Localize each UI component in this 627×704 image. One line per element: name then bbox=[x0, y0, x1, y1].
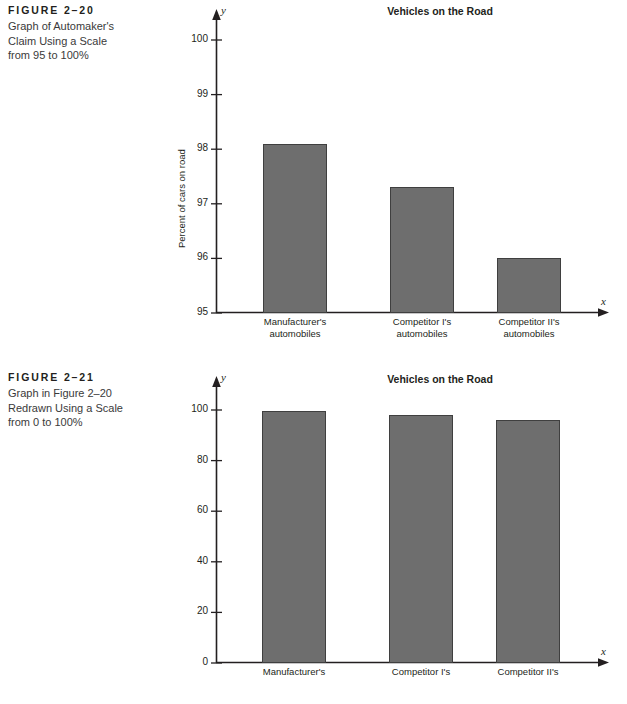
figure-2-21-ytick-80: 80 bbox=[176, 454, 208, 465]
figure-2-20-category-manufacturer-line-2: automobiles bbox=[235, 328, 355, 340]
figure-2-21-bar-competitor-2 bbox=[496, 420, 560, 663]
figure-2-20-ytick-100: 100 bbox=[176, 33, 208, 44]
figure-2-21-category-manufacturer-line-1: Manufacturer's bbox=[234, 666, 354, 678]
figure-2-20-ytick-98: 98 bbox=[176, 142, 208, 153]
figure-2-20-bar-competitor-2 bbox=[497, 258, 561, 313]
figure-2-21-chart: Vehicles on the Road Percent of cars on … bbox=[0, 366, 627, 704]
figure-2-20-ytick-99: 99 bbox=[176, 88, 208, 99]
figure-2-21-ytick-100: 100 bbox=[176, 403, 208, 414]
figure-2-20-ytick-95: 95 bbox=[176, 306, 208, 317]
figure-2-21-category-manufacturer: Manufacturer's bbox=[234, 666, 354, 678]
figure-2-21-ytick-20: 20 bbox=[176, 605, 208, 616]
figure-2-21-ytick-0: 0 bbox=[176, 656, 208, 667]
figure-2-20-category-competitor-1: Competitor I's automobiles bbox=[362, 316, 482, 340]
figure-2-20-category-manufacturer-line-1: Manufacturer's bbox=[235, 316, 355, 328]
figure-2-20-y-axis-letter: y bbox=[221, 4, 226, 16]
figure-2-21-y-axis-letter: y bbox=[221, 371, 226, 383]
figure-2-20-x-axis-letter: x bbox=[601, 295, 606, 307]
figure-2-20-ytick-96: 96 bbox=[176, 251, 208, 262]
figure-2-20-bar-manufacturer bbox=[263, 144, 327, 313]
figure-2-20-category-competitor-2-line-2: automobiles bbox=[469, 328, 589, 340]
figure-2-21-category-competitor-1: Competitor I's bbox=[361, 666, 481, 678]
figure-2-21-category-competitor-1-line-1: Competitor I's bbox=[361, 666, 481, 678]
figure-2-21-ytick-40: 40 bbox=[176, 555, 208, 566]
figure-2-20-category-competitor-2-line-1: Competitor II's bbox=[469, 316, 589, 328]
figure-2-20-category-competitor-1-line-2: automobiles bbox=[362, 328, 482, 340]
figure-2-21-bar-competitor-1 bbox=[389, 415, 453, 663]
figure-2-21-category-competitor-2: Competitor II's bbox=[468, 666, 588, 678]
figure-2-20-category-competitor-1-line-1: Competitor I's bbox=[362, 316, 482, 328]
figure-2-20-bar-competitor-1 bbox=[390, 187, 454, 313]
figure-2-20-chart: Vehicles on the Road Percent of cars on … bbox=[0, 0, 627, 352]
figure-2-20-category-competitor-2: Competitor II's automobiles bbox=[469, 316, 589, 340]
figure-2-21-x-axis-letter: x bbox=[601, 645, 606, 657]
figure-2-21-ytick-60: 60 bbox=[176, 504, 208, 515]
figure-2-21-bar-manufacturer bbox=[262, 411, 326, 663]
figure-2-20-ytick-97: 97 bbox=[176, 197, 208, 208]
figure-2-21-category-competitor-2-line-1: Competitor II's bbox=[468, 666, 588, 678]
figure-2-20-category-manufacturer: Manufacturer's automobiles bbox=[235, 316, 355, 340]
